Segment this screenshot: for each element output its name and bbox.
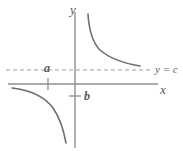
x-axis-label: x <box>160 83 166 96</box>
curve-lower-left-branch <box>12 88 66 143</box>
hyperbola-figure: y x a b y = c <box>0 0 183 151</box>
curve-upper-right-branch <box>88 14 140 66</box>
point-label-a: a <box>44 62 50 74</box>
asymptote-label-y-equals-c: y = c <box>155 64 178 75</box>
y-axis-label: y <box>70 3 76 16</box>
graph-canvas <box>0 0 183 151</box>
point-label-b: b <box>84 90 90 102</box>
